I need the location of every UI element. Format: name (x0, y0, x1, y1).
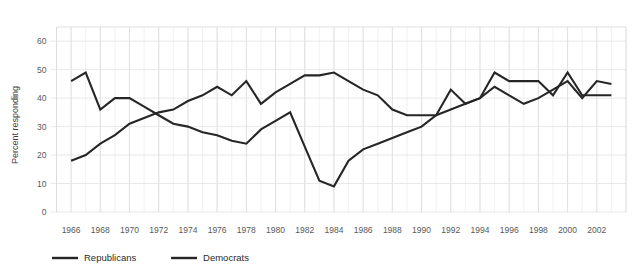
x-tick-label: 1998 (529, 225, 548, 235)
y-tick-label: 50 (37, 65, 47, 75)
x-tick-label: 2002 (587, 225, 606, 235)
x-tick-label: 1980 (266, 225, 285, 235)
legend-label-republicans: Republicans (84, 252, 137, 263)
x-tick-label: 2000 (558, 225, 577, 235)
x-tick-label: 1996 (500, 225, 519, 235)
y-tick-label: 30 (37, 122, 47, 132)
y-axis-label-text: Percent responding (10, 86, 20, 164)
y-tick-label: 40 (37, 93, 47, 103)
x-tick-label: 1982 (295, 225, 314, 235)
x-tick-label: 1994 (471, 225, 490, 235)
x-tick-label: 1970 (120, 225, 139, 235)
y-tick-label: 10 (37, 179, 47, 189)
x-tick-label: 1984 (324, 225, 343, 235)
x-tick-label: 1992 (441, 225, 460, 235)
x-tick-label: 1988 (383, 225, 402, 235)
x-tick-label: 1974 (178, 225, 197, 235)
x-tick-label: 1978 (237, 225, 256, 235)
y-tick-label: 20 (37, 150, 47, 160)
x-tick-label: 1972 (149, 225, 168, 235)
y-tick-label: 0 (42, 207, 47, 217)
x-tick-label: 1976 (208, 225, 227, 235)
chart-figure: 0102030405060 19661968197019721974197619… (0, 0, 637, 275)
legend-label-democrats: Democrats (203, 252, 249, 263)
line-chart: 0102030405060 19661968197019721974197619… (0, 0, 637, 275)
x-tick-label: 1968 (91, 225, 110, 235)
x-tick-label: 1986 (354, 225, 373, 235)
x-tick-label: 1966 (62, 225, 81, 235)
y-axis-label: Percent responding (10, 86, 20, 164)
y-tick-label: 60 (37, 36, 47, 46)
x-tick-label: 1990 (412, 225, 431, 235)
